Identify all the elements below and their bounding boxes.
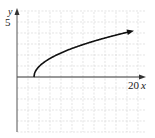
graph-canvas <box>0 0 155 138</box>
curve-arrow-icon <box>127 30 135 35</box>
x-tick-label: 20 <box>128 80 139 91</box>
y-axis-arrow-icon <box>15 8 20 15</box>
x-axis-label: x <box>141 80 146 91</box>
y-tick-label: 5 <box>5 17 11 28</box>
